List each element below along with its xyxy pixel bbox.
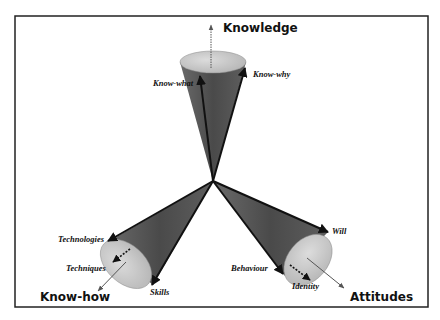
knowledge-cone-top [180,51,246,73]
identity-label: Identity [291,281,319,291]
will-label: Will [332,226,347,236]
know-why-label: Know-why [252,69,291,79]
techniques-label: Techniques [66,263,107,273]
knowledge-cones-diagram: Knowledge Know-what Know-why Technologie… [0,0,440,320]
know-what-label: Know-what [152,78,194,88]
attitudes-title: Attitudes [350,290,413,304]
knowledge-title: Knowledge [223,21,298,35]
skills-label: Skills [150,287,170,297]
know-how-title: Know-how [40,290,110,304]
technologies-label: Technologies [58,234,105,244]
behaviour-label: Behaviour [230,263,269,273]
